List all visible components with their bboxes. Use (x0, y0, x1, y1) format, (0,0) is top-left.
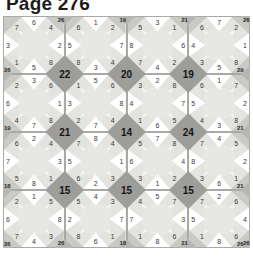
block-number-s: 7 (94, 122, 98, 129)
block-number-se: 1 (234, 175, 238, 182)
block-number-nw: 7 (15, 24, 19, 31)
block-number-e: 3 (181, 216, 185, 223)
block-number-ne: 2 (234, 24, 238, 31)
junction-node-1-1[interactable]: 22 (46, 55, 84, 93)
block-number-n: 7 (217, 19, 221, 26)
block-number-e: 2 (243, 100, 247, 107)
block-number-s: 8 (155, 238, 159, 245)
block-number-e: 1 (58, 100, 62, 107)
junction-node-3-2[interactable]: 15 (108, 171, 146, 209)
junction-value: 20 (108, 55, 146, 93)
block-number-n: 3 (155, 19, 159, 26)
page-title: Page 276 (6, 0, 90, 15)
block-number-nw: 6 (77, 24, 81, 31)
junction-node-1-3[interactable]: 19 (169, 55, 207, 93)
block-number-s: 8 (32, 180, 36, 187)
block-number-sw: 8 (77, 233, 81, 240)
block-number-ne: 1 (173, 24, 177, 31)
block-number-s: 2 (94, 180, 98, 187)
junction-node-2-1[interactable]: 21 (46, 113, 84, 151)
junction-value: 24 (169, 113, 207, 151)
block-number-s: 6 (94, 238, 98, 245)
junction-value: 15 (46, 171, 84, 209)
junction-node-2-3[interactable]: 24 (169, 113, 207, 151)
block-number-w: 8 (191, 158, 195, 165)
block-number-se: 6 (234, 233, 238, 240)
block-number-n: 2 (217, 193, 221, 200)
edge-marker: 26 (58, 240, 65, 246)
edge-marker: 26 (243, 17, 250, 23)
block-number-n: 4 (94, 193, 98, 200)
block-number-ne: 7 (234, 82, 238, 89)
block-number-n: 7 (155, 135, 159, 142)
block-number-n: 5 (94, 77, 98, 84)
block-number-s: 3 (217, 122, 221, 129)
block-number-w: 5 (68, 158, 72, 165)
block-number-w: 5 (191, 100, 195, 107)
junction-node-2-2[interactable]: 14 (108, 113, 146, 151)
junction-node-3-3[interactable]: 15 (169, 171, 207, 209)
block-star-center (202, 145, 235, 176)
puzzle-grid[interactable]: 6253741817356284364851727154623831762648… (3, 16, 250, 248)
block-number-s: 6 (217, 180, 221, 187)
block-number-e: 7 (120, 216, 124, 223)
block-star-center (202, 203, 235, 234)
block-star-center (202, 29, 235, 60)
block-number-s: 8 (217, 238, 221, 245)
block-number-e: 1 (120, 158, 124, 165)
block-number-w: 5 (68, 42, 72, 49)
block-number-e: 7 (120, 42, 124, 49)
block-number-e: 1 (243, 42, 247, 49)
junction-node-3-1[interactable]: 15 (46, 171, 84, 209)
block-number-s: 3 (94, 64, 98, 71)
block-number-s: 1 (155, 180, 159, 187)
block-number-nw: 6 (15, 140, 19, 147)
block-star-center (202, 87, 235, 118)
block-number-n: 6 (32, 19, 36, 26)
block-number-w: 4 (191, 42, 195, 49)
block-number-sw: 1 (138, 233, 142, 240)
block-number-sw: 7 (15, 233, 19, 240)
block-number-nw: 2 (15, 198, 19, 205)
block-number-e: 4 (181, 158, 185, 165)
block-number-n: 3 (32, 77, 36, 84)
block-number-w: 3 (68, 100, 72, 107)
block-number-n: 4 (217, 135, 221, 142)
block-number-w: 6 (6, 216, 10, 223)
block-number-n: 1 (217, 77, 221, 84)
junction-value: 15 (108, 171, 146, 209)
block-number-w: 4 (130, 100, 134, 107)
block-number-e: 2 (58, 42, 62, 49)
block-number-e: 6 (181, 42, 185, 49)
block-number-w: 8 (130, 42, 134, 49)
block-number-e: 3 (58, 158, 62, 165)
block-number-n: 2 (32, 135, 36, 142)
junction-value: 19 (169, 55, 207, 93)
block-number-n: 2 (155, 77, 159, 84)
block-number-n: 5 (155, 193, 159, 200)
edge-marker: 19 (120, 17, 127, 23)
block-number-w: 7 (130, 216, 134, 223)
block-number-w: 2 (68, 216, 72, 223)
block-number-s: 6 (155, 122, 159, 129)
block-number-e: 7 (181, 100, 185, 107)
block-number-s: 5 (217, 64, 221, 71)
block-number-e: 4 (243, 216, 247, 223)
block-number-sw: 1 (15, 59, 19, 66)
block-number-se: 1 (111, 233, 115, 240)
edge-marker: 19 (4, 125, 11, 131)
block-number-sw: 1 (200, 233, 204, 240)
junction-value: 21 (46, 113, 84, 151)
edge-marker: 18 (4, 183, 11, 189)
block-number-s: 4 (32, 238, 36, 245)
junction-node-1-2[interactable]: 20 (108, 55, 146, 93)
edge-marker: 21 (181, 240, 188, 246)
junction-value: 15 (169, 171, 207, 209)
edge-marker: 26 (4, 67, 11, 73)
edge-marker: 29 (237, 67, 244, 73)
block-number-ne: 5 (234, 140, 238, 147)
junction-value: 14 (108, 113, 146, 151)
block-number-sw: 4 (15, 117, 19, 124)
block-number-se: 6 (173, 233, 177, 240)
edge-marker: 21 (237, 125, 244, 131)
